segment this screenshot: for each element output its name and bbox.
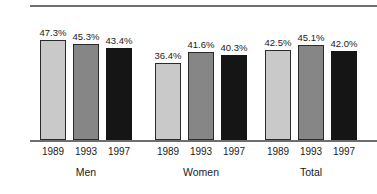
bar[interactable] xyxy=(221,55,247,140)
bar[interactable] xyxy=(265,50,291,140)
bar-value-label: 42.5% xyxy=(265,38,292,48)
bar-value-label: 40.3% xyxy=(221,43,248,53)
axis-tick-label-year: 1997 xyxy=(333,146,355,158)
bar-slot: 36.4%1989 xyxy=(155,0,181,194)
axis-tick-label-year: 1997 xyxy=(223,146,245,158)
group-label: Women xyxy=(155,166,247,178)
bar[interactable] xyxy=(73,44,99,140)
bar-value-label: 42.0% xyxy=(331,39,358,49)
bar-value-label: 41.6% xyxy=(188,40,215,50)
bar-group: 47.3%198945.3%199343.4%1997Men xyxy=(40,0,132,194)
axis-tick-label-year: 1993 xyxy=(75,146,97,158)
axis-tick-label-year: 1993 xyxy=(300,146,322,158)
bar[interactable] xyxy=(298,45,324,140)
bar-value-label: 45.1% xyxy=(298,33,325,43)
bar[interactable] xyxy=(188,52,214,140)
bar-slot: 40.3%1997 xyxy=(221,0,247,194)
bar-slot: 47.3%1989 xyxy=(40,0,66,194)
group-label: Total xyxy=(265,166,357,178)
bar[interactable] xyxy=(106,48,132,140)
axis-tick-label-year: 1997 xyxy=(108,146,130,158)
bar-slot: 45.3%1993 xyxy=(73,0,99,194)
bar-slot: 42.5%1989 xyxy=(265,0,291,194)
grouped-bar-chart: 47.3%198945.3%199343.4%1997Men36.4%19894… xyxy=(0,0,377,194)
bar[interactable] xyxy=(40,40,66,140)
axis-tick-label-year: 1989 xyxy=(267,146,289,158)
axis-tick-label-year: 1989 xyxy=(42,146,64,158)
bar-value-label: 36.4% xyxy=(155,51,182,61)
axis-tick-label-year: 1993 xyxy=(190,146,212,158)
bar-value-label: 43.4% xyxy=(106,36,133,46)
bar-slot: 42.0%1997 xyxy=(331,0,357,194)
bar-slot: 45.1%1993 xyxy=(298,0,324,194)
bar-value-label: 45.3% xyxy=(73,32,100,42)
bar-slot: 43.4%1997 xyxy=(106,0,132,194)
axis-tick-label-year: 1989 xyxy=(157,146,179,158)
bar[interactable] xyxy=(155,63,181,140)
bar-value-label: 47.3% xyxy=(40,28,67,38)
group-label: Men xyxy=(40,166,132,178)
category-axis-line xyxy=(30,140,377,142)
bar-slot: 41.6%1993 xyxy=(188,0,214,194)
bar-group: 42.5%198945.1%199342.0%1997Total xyxy=(265,0,357,194)
bar-group: 36.4%198941.6%199340.3%1997Women xyxy=(155,0,247,194)
bar[interactable] xyxy=(331,51,357,140)
plot-area: 47.3%198945.3%199343.4%1997Men36.4%19894… xyxy=(0,0,377,194)
